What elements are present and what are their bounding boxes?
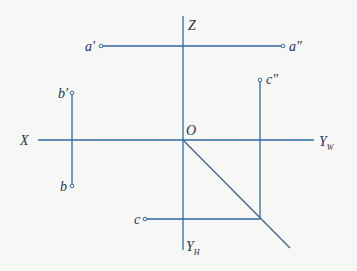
point-b-prime <box>70 91 74 95</box>
diagram-svg: Z X O YW YH a′ a″ b′ b c″ c <box>0 0 357 271</box>
label-b: b <box>60 179 67 194</box>
label-c: c <box>134 212 141 227</box>
label-a-dprime: a″ <box>289 39 302 54</box>
diagonal-45-line <box>183 140 290 248</box>
point-c <box>143 217 147 221</box>
projection-diagram: Z X O YW YH a′ a″ b′ b c″ c <box>0 0 357 271</box>
label-yw-sub: W <box>327 143 335 152</box>
point-a-dprime <box>281 44 285 48</box>
label-origin: O <box>186 123 196 138</box>
label-yw: YW <box>319 134 335 152</box>
label-x: X <box>19 133 29 148</box>
label-a-prime: a′ <box>85 39 96 54</box>
point-b <box>70 184 74 188</box>
label-z: Z <box>188 18 196 33</box>
point-a-prime <box>99 44 103 48</box>
point-c-dprime <box>258 78 262 82</box>
label-yh-sub: H <box>193 248 201 257</box>
label-b-prime: b′ <box>58 86 69 101</box>
label-c-dprime: c″ <box>266 72 278 87</box>
label-yh: YH <box>186 239 201 257</box>
